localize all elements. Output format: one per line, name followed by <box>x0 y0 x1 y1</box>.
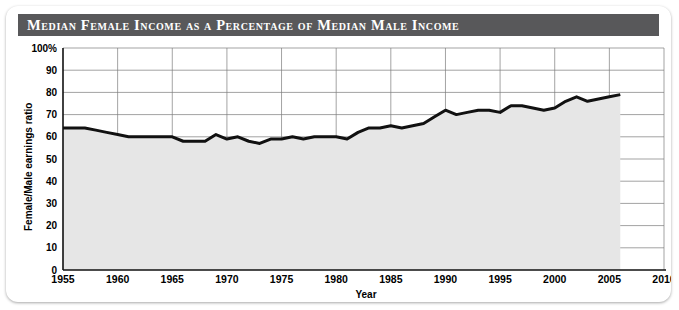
y-tick-label: 20 <box>46 220 58 231</box>
y-tick-label: 90 <box>46 65 58 76</box>
chart-plot-area: 0102030405060708090100% 1955196019651970… <box>6 6 671 302</box>
x-tick-label: 1970 <box>215 273 239 285</box>
x-tick-label: 1975 <box>270 273 294 285</box>
x-tick-label: 1990 <box>434 273 458 285</box>
area-fill-shape <box>63 95 620 270</box>
x-tick-label: 2000 <box>543 273 567 285</box>
x-axis-title: Year <box>355 289 376 300</box>
x-tick-label: 1965 <box>161 273 185 285</box>
y-tick-label: 80 <box>46 87 58 98</box>
y-tick-label: 10 <box>46 242 58 253</box>
y-axis-title: Female/Male earnings ratio <box>23 103 34 231</box>
chart-card: Median Female Income as a Percentage of … <box>6 6 671 302</box>
x-tick-label: 1955 <box>51 273 75 285</box>
y-tick-label: 100% <box>31 43 57 54</box>
x-tick-label: 1960 <box>106 273 130 285</box>
y-tick-label: 70 <box>46 109 58 120</box>
y-tick-label: 30 <box>46 198 58 209</box>
x-tick-label: 2010 <box>652 273 671 285</box>
y-tick-label: 60 <box>46 131 58 142</box>
x-tick-label: 1995 <box>488 273 512 285</box>
chart-svg: 0102030405060708090100% 1955196019651970… <box>6 6 671 302</box>
area-fill <box>63 95 620 270</box>
x-axis-tick-labels: 1955196019651970197519801985199019952000… <box>51 273 671 285</box>
y-axis-tick-labels: 0102030405060708090100% <box>31 43 57 276</box>
y-tick-label: 50 <box>46 154 58 165</box>
x-tick-label: 1980 <box>325 273 349 285</box>
x-tick-label: 1985 <box>379 273 403 285</box>
x-tick-label: 2005 <box>598 273 622 285</box>
y-tick-label: 40 <box>46 176 58 187</box>
